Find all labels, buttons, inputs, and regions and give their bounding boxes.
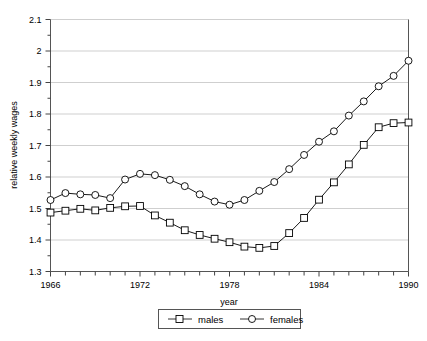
data-point-males [137, 203, 144, 210]
data-point-females [122, 176, 129, 183]
data-point-males [226, 239, 233, 246]
data-point-females [151, 172, 158, 179]
data-point-females [271, 179, 278, 186]
data-point-males [286, 230, 293, 237]
y-tick-label: 1.5 [29, 204, 42, 214]
data-point-females [166, 176, 173, 183]
data-point-males [331, 179, 338, 186]
data-point-females [345, 112, 352, 119]
legend-label-females: females [270, 314, 304, 325]
data-point-males [271, 243, 278, 250]
data-point-males [196, 232, 203, 239]
data-point-females [47, 197, 54, 204]
data-point-males [47, 209, 54, 216]
data-point-males [166, 219, 173, 226]
x-axis-label: year [220, 297, 238, 307]
legend: males females [159, 310, 304, 329]
y-tick-label: 1.7 [29, 141, 42, 151]
y-axis-label: relative weekly wages [9, 101, 19, 189]
data-point-males [316, 196, 323, 203]
data-point-females [77, 191, 84, 198]
data-point-males [62, 207, 69, 214]
data-point-males [107, 204, 114, 211]
data-point-males [122, 203, 129, 210]
data-point-females [107, 195, 114, 202]
legend-label-males: males [198, 314, 224, 325]
data-point-males [92, 207, 99, 214]
data-point-females [405, 57, 412, 64]
y-tick-label: 1.8 [29, 109, 42, 119]
data-point-females [92, 191, 99, 198]
data-point-males [301, 215, 308, 222]
data-point-males [77, 205, 84, 212]
x-tick-label: 1990 [398, 280, 418, 290]
data-point-females [256, 187, 263, 194]
data-point-females [330, 128, 337, 135]
y-tick-label: 1.9 [29, 78, 42, 88]
data-point-females [137, 170, 144, 177]
data-point-males [405, 119, 412, 126]
data-point-females [196, 191, 203, 198]
data-point-females [360, 98, 367, 105]
data-point-males [375, 124, 382, 131]
data-point-females [375, 83, 382, 90]
x-tick-label: 1978 [219, 280, 239, 290]
data-point-males [390, 120, 397, 127]
data-point-females [390, 72, 397, 79]
data-point-males [241, 243, 248, 250]
data-point-females [62, 190, 69, 197]
x-tick-label: 1984 [309, 280, 329, 290]
y-tick-label: 2.1 [29, 15, 42, 25]
data-point-females [211, 198, 218, 205]
data-point-males [152, 212, 159, 219]
x-tick-label: 1972 [130, 280, 150, 290]
data-point-males [360, 141, 367, 148]
data-point-females [301, 151, 308, 158]
data-point-females [316, 138, 323, 145]
y-tick-label: 1.4 [29, 235, 42, 245]
legend-marker-square-icon [176, 316, 183, 323]
y-tick-label: 1.6 [29, 172, 42, 182]
data-point-females [226, 201, 233, 208]
data-point-females [241, 197, 248, 204]
y-tick-label: 2 [36, 46, 41, 56]
data-point-females [181, 183, 188, 190]
data-point-females [286, 166, 293, 173]
y-tick-label: 1.3 [29, 267, 42, 277]
x-tick-label: 1966 [40, 280, 60, 290]
data-point-males [256, 244, 263, 251]
data-point-males [181, 227, 188, 234]
wages-line-chart: 1.31.41.51.61.71.81.922.1 19661972197819… [0, 0, 427, 341]
legend-marker-circle-icon [249, 316, 256, 323]
data-point-males [211, 235, 218, 242]
data-point-males [345, 161, 352, 168]
